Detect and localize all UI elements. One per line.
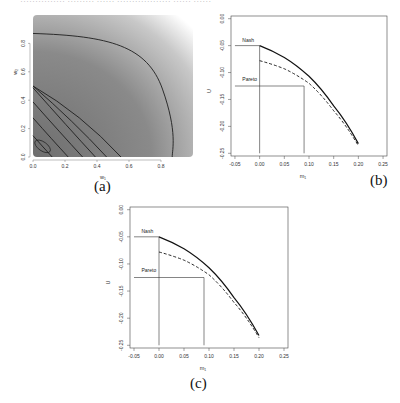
caption-a: (a) [94, 178, 111, 195]
dashed-curve [260, 61, 359, 146]
y-tick-label: 0.00 [219, 14, 225, 24]
heatmap-surface [33, 15, 193, 157]
y-tick-label: -0.15 [219, 94, 225, 106]
y-tick-label: -0.10 [219, 67, 225, 79]
y-tick-label: -0.05 [219, 40, 225, 52]
annotation-nash: Nash [242, 37, 254, 43]
x-tick-label: 0.05 [279, 161, 289, 167]
y-tick-label: -0.05 [118, 231, 124, 243]
x-tick-label: 0.20 [254, 353, 264, 359]
x-tick-label: 0.05 [179, 353, 189, 359]
x-tick-label: 0.10 [204, 353, 214, 359]
x-tick-label: 0.4 [94, 163, 101, 169]
x-axis-label: m₁ [200, 365, 207, 371]
x-tick-label: 0.2 [62, 163, 69, 169]
x-tick-label: 0.8 [158, 163, 165, 169]
y-tick-label: 0.8 [20, 40, 26, 47]
x-tick-label: 0.10 [304, 161, 314, 167]
x-tick-label: 0.25 [378, 161, 388, 167]
solid-curve [260, 46, 359, 144]
x-tick-label: 0.6 [126, 163, 133, 169]
contour-heatmap-plot: 0.00.20.40.60.80.00.20.40.60.8w₁w₂ [0, 0, 200, 180]
annotation-pareto: Pareto [142, 267, 157, 273]
y-tick-label: -0.25 [118, 339, 124, 351]
y-tick-label: -0.10 [118, 258, 124, 270]
caption-b: (b) [370, 172, 388, 189]
y-tick-label: -0.25 [219, 147, 225, 159]
y-tick-label: -0.20 [118, 312, 124, 324]
x-axis-label: m₁ [300, 173, 307, 179]
y-axis-label: U [105, 280, 111, 284]
utility-line-plot-b: -0.050.000.050.100.150.200.250.00-0.05-0… [195, 0, 400, 180]
x-tick-label: 0.0 [30, 163, 37, 169]
annotation-pareto: Pareto [242, 76, 257, 82]
y-tick-label: 0.0 [20, 153, 26, 160]
x-tick-label: -0.05 [229, 161, 241, 167]
y-tick-label: 0.6 [20, 68, 26, 75]
x-tick-label: 0.15 [329, 161, 339, 167]
x-tick-label: -0.05 [128, 353, 140, 359]
solid-curve [159, 237, 259, 336]
x-tick-label: 0.25 [279, 353, 289, 359]
x-tick-label: 0.20 [353, 161, 363, 167]
utility-line-plot-c: -0.050.000.050.100.150.200.250.00-0.05-0… [100, 196, 300, 376]
y-axis-label: w₂ [12, 69, 18, 76]
y-tick-label: -0.15 [118, 285, 124, 297]
y-tick-label: 0.2 [20, 125, 26, 132]
dashed-curve [159, 252, 259, 338]
y-tick-label: -0.20 [219, 120, 225, 132]
x-tick-label: 0.00 [255, 161, 265, 167]
y-tick-label: 0.00 [118, 205, 124, 215]
caption-c: (c) [190, 375, 207, 392]
x-tick-label: 0.15 [229, 353, 239, 359]
y-axis-label: U [206, 89, 212, 93]
x-tick-label: 0.00 [154, 353, 164, 359]
y-tick-label: 0.4 [20, 97, 26, 104]
annotation-nash: Nash [142, 228, 154, 234]
